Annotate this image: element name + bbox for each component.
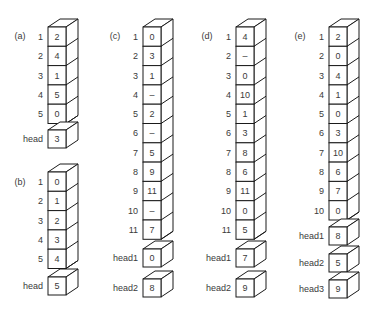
cell-value: 6 [242,167,247,177]
row-index: 2 [38,51,43,61]
row-index: 10 [314,206,324,216]
row-index: 8 [133,167,138,177]
cell-value: 1 [54,196,59,206]
row-index: 10 [221,206,231,216]
row-index: 1 [38,32,43,42]
cell-value: 0 [242,71,247,81]
cell-value: 5 [54,90,59,100]
cell-value: 0 [335,206,340,216]
cell-value: 4 [54,254,59,264]
cell-value: – [149,128,154,138]
row-index: 5 [38,109,43,119]
cell-value: 3 [54,235,59,245]
cell-value: 4 [54,51,59,61]
row-index: 4 [38,90,43,100]
head-value: 7 [242,253,247,263]
array-stack: 41–20310415368768119010511 [221,19,266,239]
head-value: 5 [54,281,59,291]
head-box: 7head1 [206,241,266,267]
row-index: 6 [319,128,324,138]
linked-list-array-figure: (a)21421354053head(b)01122334455head(c)0… [0,0,374,314]
panel-c: (c)013213–425–65798119–107110head18head2 [110,19,173,297]
head-value: 5 [335,258,340,268]
panel-label: (a) [15,31,26,41]
head-label: head2 [299,258,324,268]
cell-value: 0 [149,32,154,42]
array-stack: 2142135405 [38,19,78,124]
cell-value: 2 [335,32,340,42]
row-index: 1 [38,177,43,187]
row-index: 9 [226,186,231,196]
cell-value: 11 [147,186,156,196]
head-value: 9 [242,283,247,293]
cell-value: 3 [242,128,247,138]
row-index: 4 [133,90,138,100]
row-index: 4 [226,90,231,100]
head-value: 3 [54,134,59,144]
panel-label: (d) [202,31,213,41]
head-box: 9head2 [206,271,266,297]
stack-side-face [161,19,173,239]
cell-value: 11 [240,186,249,196]
row-index: 5 [226,109,231,119]
row-index: 4 [38,235,43,245]
row-index: 2 [38,196,43,206]
head-value: 8 [335,231,340,241]
cell-value: 3 [149,51,154,61]
cell-value: 0 [54,177,59,187]
cell-value: 4 [242,32,247,42]
row-index: 7 [226,148,231,158]
cell-value: 0 [242,206,247,216]
head-label: head1 [299,231,324,241]
head-label: head1 [206,253,231,263]
head-label: head1 [113,253,138,263]
row-index: 9 [319,186,324,196]
cell-value: – [149,90,154,100]
head-label: head2 [206,283,231,293]
row-index: 7 [133,148,138,158]
cell-value: 0 [54,109,59,119]
cell-value: 7 [149,225,154,235]
row-index: 5 [38,254,43,264]
head-box: 8head2 [113,271,173,297]
panel-label: (e) [295,31,306,41]
row-index: 5 [133,109,138,119]
cell-value: 2 [149,109,154,119]
head-box: 5head2 [299,246,359,272]
panel-e: (e)21024314053610768790108head15head29he… [295,19,360,298]
cell-value: 3 [335,128,340,138]
cell-value: 1 [149,71,154,81]
head-value: 8 [149,283,154,293]
cell-value: 5 [242,225,247,235]
head-value: 0 [149,253,154,263]
row-index: 5 [319,109,324,119]
row-index: 2 [319,51,324,61]
cell-value: 4 [335,71,340,81]
array-stack: 2102431405361076879010 [314,19,359,220]
head-box: 5head [23,269,78,295]
row-index: 3 [319,71,324,81]
row-index: 8 [319,167,324,177]
head-box: 9head3 [299,272,359,298]
head-label: head2 [113,283,138,293]
row-index: 3 [226,71,231,81]
row-index: 1 [133,32,138,42]
cell-value: 10 [240,90,250,100]
row-index: 11 [222,225,231,235]
row-index: 1 [226,32,231,42]
row-index: 8 [226,167,231,177]
stack-side-face [254,19,266,239]
head-value: 9 [335,284,340,294]
row-index: 2 [133,51,138,61]
row-index: 10 [128,206,138,216]
stack-side-face [66,164,78,269]
panel-b: (b)01122334455head [15,164,79,295]
row-index: 4 [319,90,324,100]
cell-value: 6 [335,167,340,177]
row-index: 3 [38,71,43,81]
cell-value: – [149,206,154,216]
head-box: 0head1 [113,241,173,267]
cell-value: 2 [54,32,59,42]
row-index: 1 [319,32,324,42]
cell-value: 5 [149,148,154,158]
